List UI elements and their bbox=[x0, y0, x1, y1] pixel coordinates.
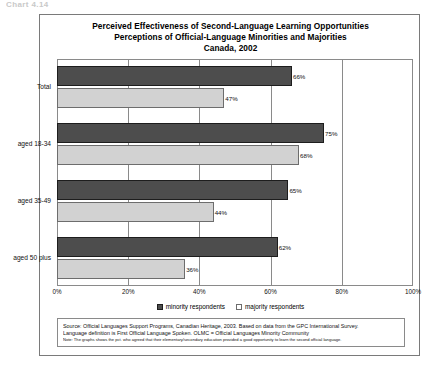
legend-label-majority: majority respondents bbox=[245, 303, 304, 310]
x-tick-label: 80% bbox=[335, 288, 348, 295]
x-axis-ticks: 0%20%40%60%80%100% bbox=[57, 288, 413, 300]
category-group: aged 18-3475%68% bbox=[57, 116, 413, 173]
bar-value-label: 62% bbox=[279, 243, 291, 250]
bar-value-label: 36% bbox=[186, 265, 198, 272]
bar-majority: 47% bbox=[57, 88, 224, 108]
source-line-1: Source: Official Languages Support Progr… bbox=[63, 323, 399, 330]
category-label: Total bbox=[37, 83, 51, 90]
legend-item-majority: majority respondents bbox=[236, 303, 304, 310]
chart-title-line1: Perceived Effectiveness of Second-Langua… bbox=[40, 21, 421, 32]
category-group: aged 35-4965%44% bbox=[57, 173, 413, 230]
bar-majority: 36% bbox=[57, 259, 185, 279]
bar-value-label: 75% bbox=[325, 130, 337, 137]
clipped-header-artifact: Chart 4.14 bbox=[6, 0, 126, 9]
plot-area: Total66%47%aged 18-3475%68%aged 35-4965%… bbox=[57, 59, 413, 286]
x-tick-label: 100% bbox=[405, 288, 421, 295]
chart-title-line2: Perceptions of Official-Language Minorit… bbox=[40, 32, 421, 43]
x-tick-label: 0% bbox=[52, 288, 61, 295]
category-group: Total66%47% bbox=[57, 59, 413, 116]
category-label: aged 18-34 bbox=[18, 140, 51, 147]
source-note-box: Source: Official Languages Support Progr… bbox=[57, 318, 405, 347]
source-line-2: Language definition is First Official La… bbox=[63, 330, 399, 337]
bar-majority: 44% bbox=[57, 202, 214, 222]
legend-swatch-majority-icon bbox=[236, 304, 242, 310]
chart-title-line3: Canada, 2002 bbox=[40, 43, 421, 54]
legend-label-minority: minority respondents bbox=[166, 303, 225, 310]
bar-minority: 62% bbox=[57, 237, 278, 257]
legend-swatch-minority-icon bbox=[157, 304, 163, 310]
bar-value-label: 66% bbox=[293, 73, 305, 80]
chart-legend: minority respondents majority respondent… bbox=[40, 303, 421, 310]
x-tick-label: 20% bbox=[122, 288, 135, 295]
bar-value-label: 47% bbox=[225, 95, 237, 102]
category-group: aged 50 plus62%36% bbox=[57, 229, 413, 286]
bar-minority: 65% bbox=[57, 180, 288, 200]
chart-title-block: Perceived Effectiveness of Second-Langua… bbox=[40, 21, 421, 54]
bar-minority: 66% bbox=[57, 66, 292, 86]
bar-value-label: 68% bbox=[300, 152, 312, 159]
bar-value-label: 65% bbox=[289, 186, 301, 193]
chart-frame: Perceived Effectiveness of Second-Langua… bbox=[39, 14, 420, 356]
category-label: aged 35-49 bbox=[18, 197, 51, 204]
x-tick-label: 40% bbox=[193, 288, 206, 295]
source-note-line: Note: The graphs shows the pct. who agre… bbox=[63, 337, 399, 343]
legend-item-minority: minority respondents bbox=[157, 303, 225, 310]
bar-minority: 75% bbox=[57, 123, 324, 143]
x-tick-label: 60% bbox=[264, 288, 277, 295]
bar-majority: 68% bbox=[57, 145, 299, 165]
bar-value-label: 44% bbox=[215, 208, 227, 215]
category-label: aged 50 plus bbox=[13, 254, 51, 261]
